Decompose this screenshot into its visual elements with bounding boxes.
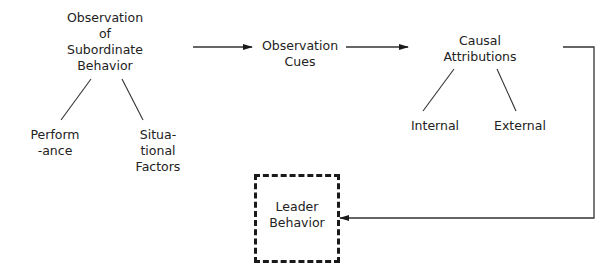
node-text-line: Factors [118, 159, 198, 175]
node-text-line: Behavior [30, 58, 180, 74]
node-internal: Internal [400, 118, 470, 134]
node-text-line: Attributions [420, 49, 540, 65]
node-text-line: Perform [15, 127, 95, 143]
node-text-line: -ance [15, 143, 95, 159]
node-text-line: Cues [250, 54, 350, 70]
node-observation-of-subordinate-behavior: Observation of Subordinate Behavior [30, 10, 180, 74]
node-text-line: Causal [420, 33, 540, 49]
branch-causal-external [497, 69, 516, 111]
branch-observation-situational [122, 79, 143, 120]
node-text-line: Internal [411, 118, 459, 133]
node-text-line: of [30, 26, 180, 42]
node-performance: Perform -ance [15, 127, 95, 159]
node-text-line: tional [118, 143, 198, 159]
branch-observation-performance [61, 79, 91, 120]
node-external: External [480, 118, 560, 134]
node-leader-behavior: Leader Behavior [254, 199, 340, 231]
node-situational-factors: Situa- tional Factors [118, 127, 198, 175]
node-text-line: Observation [250, 38, 350, 54]
node-text-line: Situa- [118, 127, 198, 143]
node-observation-cues: Observation Cues [250, 38, 350, 70]
node-text-line: Behavior [254, 215, 340, 231]
node-text-line: Subordinate [30, 42, 180, 58]
node-text-line: External [494, 118, 546, 133]
node-text-line: Leader [254, 199, 340, 215]
node-text-line: Observation [30, 10, 180, 26]
node-causal-attributions: Causal Attributions [420, 33, 540, 65]
branch-causal-internal [423, 69, 454, 111]
